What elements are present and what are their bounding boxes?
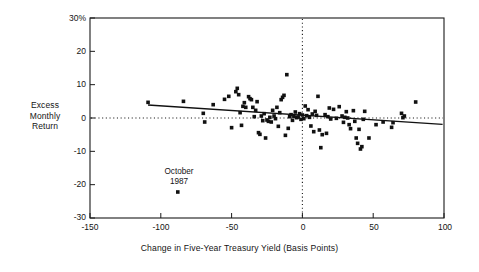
plot-canvas xyxy=(0,0,479,272)
data-point xyxy=(269,120,273,124)
data-point xyxy=(374,123,378,127)
data-point xyxy=(277,125,281,129)
data-point xyxy=(344,110,348,114)
data-point xyxy=(211,103,215,107)
data-point xyxy=(252,115,256,119)
data-points-layer xyxy=(146,73,417,194)
data-point xyxy=(337,105,341,109)
data-point xyxy=(363,110,367,114)
data-point xyxy=(306,108,310,112)
data-point xyxy=(238,111,242,115)
data-point xyxy=(403,114,407,118)
data-point xyxy=(285,73,289,77)
data-point xyxy=(146,101,150,105)
data-point xyxy=(237,93,241,97)
data-point xyxy=(182,100,186,104)
data-point xyxy=(308,116,312,120)
data-point xyxy=(282,94,286,98)
scatter-plot-figure: Excess Monthly Return Change in Five-Yea… xyxy=(0,0,479,272)
data-point xyxy=(320,133,324,137)
data-point xyxy=(294,110,298,114)
data-point xyxy=(318,128,322,132)
data-point xyxy=(303,104,307,108)
data-point xyxy=(255,100,259,104)
data-point xyxy=(346,116,350,120)
data-point xyxy=(262,112,266,116)
data-point xyxy=(354,136,358,140)
data-point xyxy=(319,146,323,150)
data-point xyxy=(328,106,332,110)
data-point xyxy=(312,130,316,134)
data-point xyxy=(357,128,361,132)
data-point xyxy=(230,126,234,130)
reference-lines-layer xyxy=(91,19,443,217)
data-point xyxy=(203,120,207,124)
data-point xyxy=(284,134,288,138)
data-point xyxy=(325,132,329,136)
data-point xyxy=(347,123,351,127)
data-point xyxy=(342,121,346,125)
data-point xyxy=(240,124,244,128)
data-point xyxy=(268,116,272,120)
data-point xyxy=(286,127,290,131)
data-point xyxy=(264,136,268,140)
data-point xyxy=(275,106,279,110)
data-point xyxy=(227,95,231,99)
data-point xyxy=(243,101,247,105)
data-point xyxy=(223,98,227,102)
data-point xyxy=(201,112,205,116)
data-point xyxy=(332,108,336,112)
data-point xyxy=(271,109,275,113)
data-point xyxy=(176,190,180,194)
data-point xyxy=(244,106,248,110)
data-point xyxy=(349,127,353,131)
data-point xyxy=(361,118,365,122)
data-point xyxy=(309,124,313,128)
data-point xyxy=(315,114,319,118)
data-point xyxy=(261,119,265,123)
data-point xyxy=(356,142,360,146)
data-point xyxy=(291,119,295,123)
data-point xyxy=(274,117,278,121)
data-point xyxy=(335,117,339,121)
data-point xyxy=(391,121,395,125)
data-point xyxy=(316,95,320,99)
data-point xyxy=(360,145,364,149)
data-point xyxy=(381,120,385,124)
data-point xyxy=(329,117,333,121)
data-point xyxy=(254,109,258,113)
data-point xyxy=(353,120,357,124)
data-point xyxy=(313,110,317,114)
data-point xyxy=(301,113,305,117)
data-point xyxy=(250,98,254,102)
data-point xyxy=(352,109,356,113)
data-point xyxy=(258,133,262,137)
data-point xyxy=(278,111,282,115)
data-point xyxy=(367,136,371,140)
data-point xyxy=(235,87,239,91)
data-point xyxy=(414,100,418,104)
data-point xyxy=(390,126,394,130)
